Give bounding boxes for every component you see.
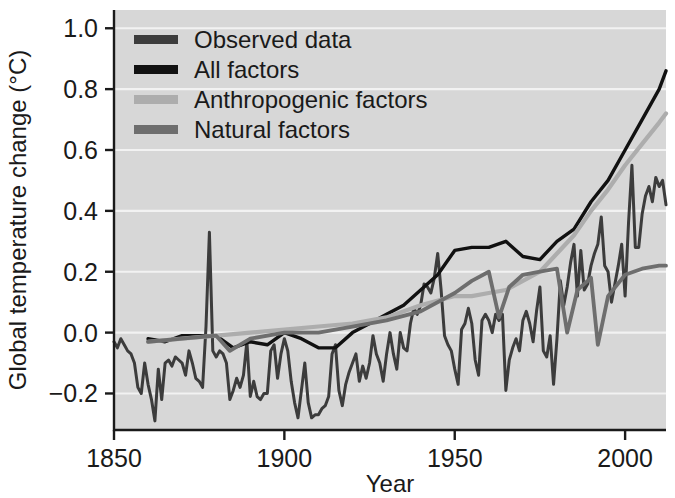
legend-swatch [134,95,178,104]
y-tick-label: 0.4 [63,197,98,225]
legend-label: Observed data [194,26,352,53]
figure-container: −0.20.00.20.40.60.81.0 1850190019502000 … [0,0,675,498]
x-tick-label: 2000 [597,444,653,472]
y-tick-label: 0.8 [63,75,98,103]
temperature-attribution-chart: −0.20.00.20.40.60.81.0 1850190019502000 … [0,0,675,498]
y-tick-label: 0.0 [63,319,98,347]
y-axis-title: Global temperature change (°C) [4,50,31,390]
legend-label: Natural factors [194,116,350,143]
x-tick-label: 1850 [86,444,142,472]
x-tick-label: 1950 [427,444,483,472]
y-tick-label: 0.6 [63,136,98,164]
legend-swatch [134,65,178,74]
legend-label: All factors [194,56,299,83]
y-tick-label: −0.2 [49,379,98,407]
legend-swatch [134,35,178,44]
legend-label: Anthropogenic factors [194,86,427,113]
legend-swatch [134,125,178,134]
y-tick-label: 1.0 [63,14,98,42]
y-tick-label: 0.2 [63,258,98,286]
x-axis-title: Year [366,470,415,497]
x-tick-label: 1900 [257,444,313,472]
